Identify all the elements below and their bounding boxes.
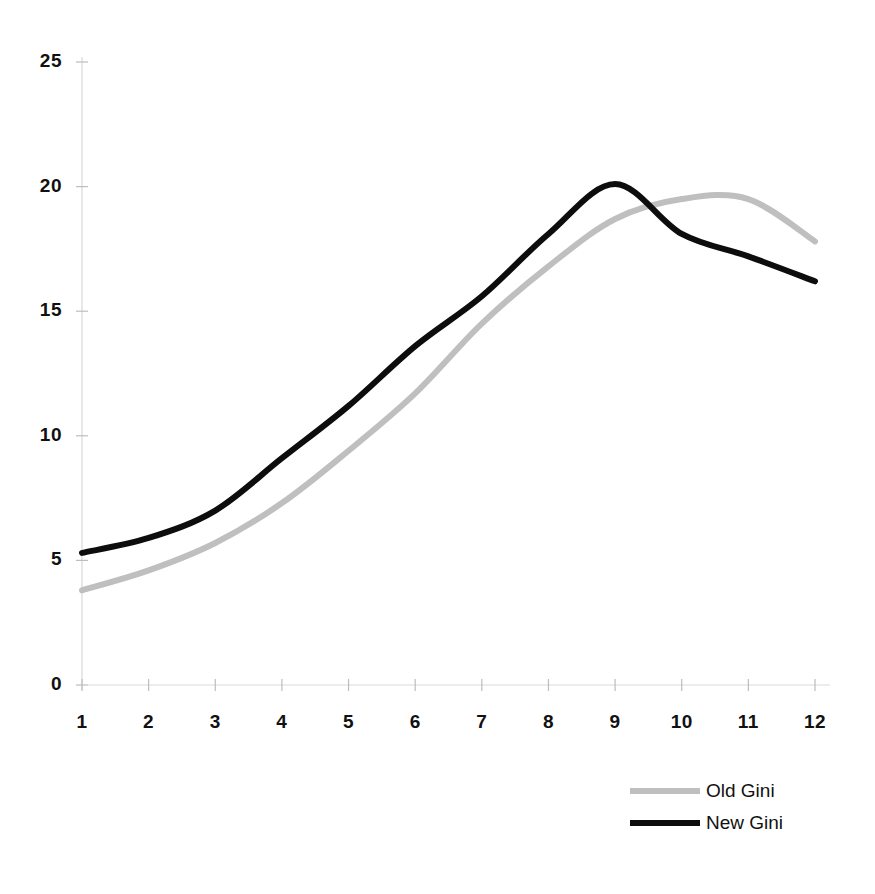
x-tick-label: 1 bbox=[76, 711, 87, 732]
y-tick-label: 5 bbox=[51, 548, 62, 569]
x-tick-label: 4 bbox=[276, 711, 287, 732]
y-tick-label: 10 bbox=[40, 424, 62, 445]
x-tick-label: 12 bbox=[804, 711, 826, 732]
x-tick-label: 5 bbox=[343, 711, 354, 732]
legend-label-new-gini: New Gini bbox=[706, 812, 783, 833]
x-tick-label: 8 bbox=[543, 711, 554, 732]
chart-background bbox=[0, 0, 875, 894]
x-tick-label: 6 bbox=[410, 711, 421, 732]
chart-container: 0510152025 123456789101112 Old GiniNew G… bbox=[0, 0, 875, 894]
y-tick-label: 0 bbox=[51, 673, 62, 694]
x-tick-label: 3 bbox=[210, 711, 221, 732]
y-tick-label: 20 bbox=[40, 175, 62, 196]
legend-label-old-gini: Old Gini bbox=[706, 780, 775, 801]
x-tick-label: 11 bbox=[738, 711, 759, 732]
line-chart: 0510152025 123456789101112 Old GiniNew G… bbox=[0, 0, 875, 894]
x-tick-label: 2 bbox=[143, 711, 154, 732]
x-tick-label: 9 bbox=[610, 711, 621, 732]
y-tick-label: 15 bbox=[40, 299, 62, 320]
y-tick-label: 25 bbox=[40, 50, 62, 71]
x-tick-label: 7 bbox=[476, 711, 487, 732]
x-tick-label: 10 bbox=[671, 711, 693, 732]
